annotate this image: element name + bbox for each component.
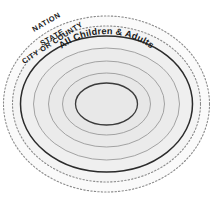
ring-core <box>76 83 138 125</box>
ring-group <box>4 16 210 192</box>
diagram-container: NATION STATE CITY OR COUNTY All Children… <box>0 0 213 208</box>
concentric-ellipse-diagram: NATION STATE CITY OR COUNTY All Children… <box>0 0 213 208</box>
